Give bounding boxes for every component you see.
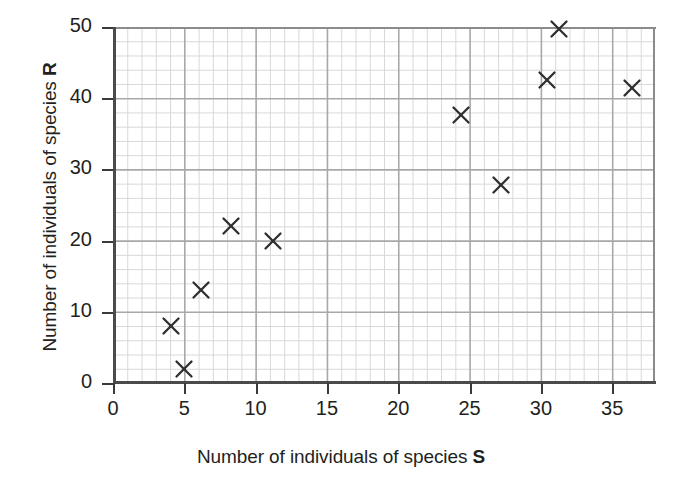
x-axis-title: Number of individuals of species S (0, 446, 682, 468)
y-axis-tick-label: 30 (30, 156, 92, 179)
x-axis-tick-label: 15 (297, 397, 357, 420)
data-point (173, 358, 195, 380)
x-axis-tick-label: 20 (368, 397, 428, 420)
data-point (450, 104, 472, 126)
x-axis-title-symbol: S (472, 446, 485, 467)
x-axis-tick (398, 383, 400, 394)
x-axis-tick (612, 383, 614, 394)
data-point (262, 230, 284, 252)
plot-area (113, 27, 655, 383)
axis-spine-left (113, 27, 116, 384)
y-axis-tick (102, 98, 113, 100)
x-axis-tick-label: 0 (83, 397, 143, 420)
x-axis-title-text: Number of individuals of species (197, 446, 473, 467)
axis-spine-right (653, 27, 655, 384)
y-axis-tick-label: 20 (30, 228, 92, 251)
y-axis-tick-label: 50 (30, 14, 92, 37)
y-axis-tick (102, 27, 113, 29)
data-point (490, 174, 512, 196)
x-axis-tick-label: 10 (226, 397, 286, 420)
x-axis-tick-label: 35 (582, 397, 642, 420)
axis-spine-top (113, 27, 656, 29)
x-axis-tick (327, 383, 329, 394)
data-point (160, 315, 182, 337)
x-axis-tick (470, 383, 472, 394)
y-axis-tick (102, 241, 113, 243)
plot-background (113, 27, 655, 383)
x-axis-tick (184, 383, 186, 394)
y-axis-tick-label: 40 (30, 85, 92, 108)
scatter-chart: Number of individuals of species R Numbe… (0, 0, 682, 492)
x-axis-tick-label: 5 (154, 397, 214, 420)
y-axis-title-symbol: R (39, 62, 60, 76)
data-point (220, 215, 242, 237)
data-point (190, 279, 212, 301)
x-axis-tick-label: 30 (511, 397, 571, 420)
axis-spine-bottom (113, 381, 656, 384)
y-axis-tick-label: 0 (30, 370, 92, 393)
x-axis-tick (541, 383, 543, 394)
x-axis-tick (113, 383, 115, 394)
x-axis-tick-label: 25 (440, 397, 500, 420)
data-point (621, 77, 643, 99)
y-axis-tick-label: 10 (30, 299, 92, 322)
y-axis-tick (102, 383, 113, 385)
grid-lines (113, 27, 655, 383)
y-axis-tick (102, 169, 113, 171)
data-point (548, 18, 570, 40)
y-axis-tick (102, 312, 113, 314)
y-axis-title: Number of individuals of species R (39, 17, 61, 397)
x-axis-tick (256, 383, 258, 394)
data-point (536, 69, 558, 91)
